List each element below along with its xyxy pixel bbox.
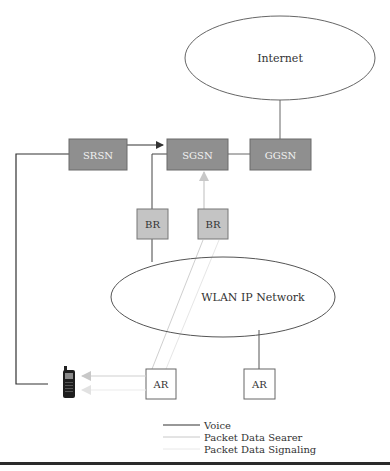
legend: Voice Packet Data Searer Packet Data Sig… xyxy=(163,420,317,455)
sgsn-node: SGSN xyxy=(167,139,228,170)
mobile-phone-icon xyxy=(63,366,75,398)
ggsn-label: GGSN xyxy=(265,150,297,161)
ar-left-node: AR xyxy=(146,369,176,399)
signaling-br-ar-line xyxy=(166,240,219,369)
diagram-canvas: Internet SRSN SGSN GG xyxy=(0,0,390,471)
voice-line-srsn-mobile xyxy=(16,154,69,384)
legend-signaling-label: Packet Data Signaling xyxy=(204,444,317,455)
srsn-label: SRSN xyxy=(83,150,113,161)
sgsn-label: SGSN xyxy=(182,150,213,161)
wlan-label: WLAN IP Network xyxy=(201,291,305,304)
br-left-node: BR xyxy=(137,209,168,239)
br-left-sgsn-link xyxy=(152,154,167,209)
br-right-node: BR xyxy=(198,209,228,239)
legend-voice-label: Voice xyxy=(203,420,231,431)
ar-right-label: AR xyxy=(251,379,267,390)
internet-cloud: Internet xyxy=(185,16,375,100)
wlan-ip-network: WLAN IP Network xyxy=(111,257,335,337)
ar-left-label: AR xyxy=(153,379,169,390)
network-diagram: Internet SRSN SGSN GG xyxy=(0,0,390,471)
ggsn-node: GGSN xyxy=(250,139,311,170)
ar-right-node: AR xyxy=(244,369,275,399)
br-right-label: BR xyxy=(206,219,221,230)
bearer-br-ar-line xyxy=(152,240,203,369)
legend-bearer-label: Packet Data Searer xyxy=(204,432,303,443)
srsn-node: SRSN xyxy=(69,139,127,170)
internet-label: Internet xyxy=(257,52,303,65)
br-left-label: BR xyxy=(145,219,160,230)
bottom-rule xyxy=(0,462,390,465)
